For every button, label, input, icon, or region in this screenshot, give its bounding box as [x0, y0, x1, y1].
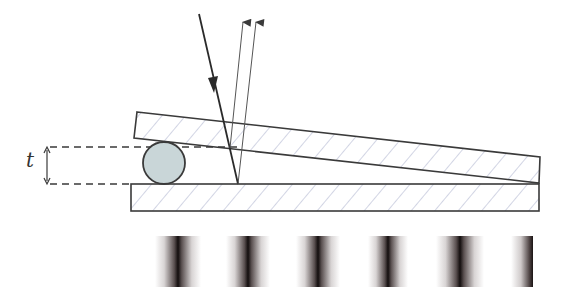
thickness-arrow-icon — [44, 147, 50, 184]
air-wedge-diagram: t — [0, 0, 570, 303]
interference-fringes — [155, 236, 533, 287]
fringe — [155, 236, 201, 287]
fringe — [368, 236, 408, 287]
thickness-label: t — [26, 148, 34, 172]
fringe — [511, 236, 533, 287]
fringe — [296, 236, 340, 287]
fringe — [226, 236, 270, 287]
spacer-sphere — [143, 142, 185, 184]
diagram-canvas — [0, 0, 570, 303]
bottom-plate — [131, 184, 539, 211]
reflected-rays — [230, 22, 256, 184]
fringe — [436, 236, 484, 287]
incident-ray — [199, 14, 238, 184]
